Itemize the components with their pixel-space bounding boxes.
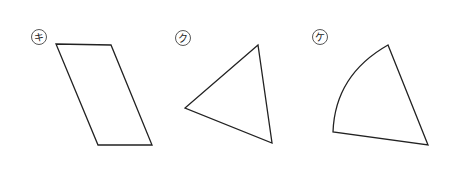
figure-ke: ケ	[313, 30, 429, 146]
label-ki: キ	[34, 32, 44, 43]
figure-ki: キ	[32, 30, 153, 146]
sector-shape	[333, 45, 428, 145]
figures-diagram: キ ク ケ	[0, 0, 457, 182]
triangle-shape	[185, 45, 272, 143]
label-ke: ケ	[315, 32, 325, 43]
figure-ku: ク	[176, 31, 273, 144]
parallelogram-shape	[56, 44, 152, 145]
label-ku: ク	[178, 33, 188, 44]
